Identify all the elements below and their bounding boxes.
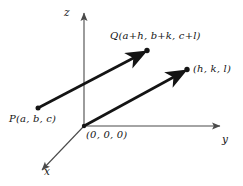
point-hkl-label: (h, k, l) xyxy=(193,64,231,74)
x-axis xyxy=(42,126,84,170)
point-q-label: Q(a+h, b+k, c+l) xyxy=(110,31,201,41)
diagram-canvas xyxy=(0,0,243,186)
point-origin-dot xyxy=(82,124,86,128)
point-hkl-dot xyxy=(184,67,189,72)
point-p-dot xyxy=(36,106,41,111)
origin-label: (0, 0, 0) xyxy=(86,130,127,140)
vector-pq xyxy=(38,53,143,108)
y-axis-label: y xyxy=(222,134,228,145)
x-axis-label: x xyxy=(44,166,50,177)
vector-diagram: z y x Q(a+h, b+k, c+l) P(a, b, c) (h, k,… xyxy=(0,0,243,186)
point-q-dot xyxy=(144,48,149,53)
vector-origin-hkl xyxy=(84,72,183,126)
point-p-label: P(a, b, c) xyxy=(9,114,56,124)
z-axis-label: z xyxy=(64,7,70,18)
